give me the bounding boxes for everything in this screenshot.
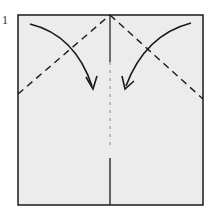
origami-diagram	[0, 0, 215, 220]
